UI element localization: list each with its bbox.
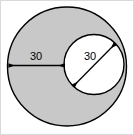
outer-radius-dimension-label: 30 [30, 50, 42, 62]
inner-diameter-dimension-label: 30 [84, 50, 96, 62]
figure-canvas: 30 30 [0, 0, 134, 135]
geometry-figure: 30 30 [0, 0, 134, 135]
